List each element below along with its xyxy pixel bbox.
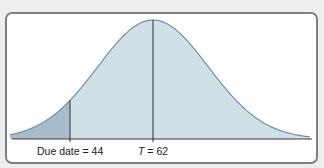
mean-label: T = 62 — [138, 145, 168, 157]
due-date-label: Due date = 44 — [37, 145, 103, 157]
normal-distribution-plot — [0, 0, 324, 168]
t-value: = 62 — [144, 145, 168, 157]
